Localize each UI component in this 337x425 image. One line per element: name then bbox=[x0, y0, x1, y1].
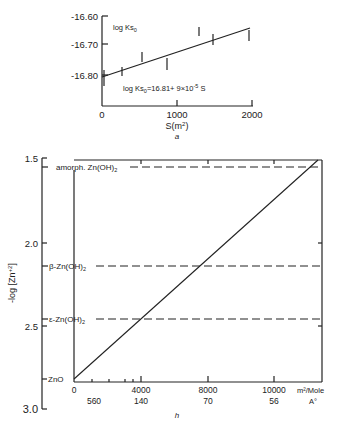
chart-b bbox=[42, 158, 322, 409]
y-tick-label: -16.60 bbox=[71, 11, 98, 22]
fit-line bbox=[102, 28, 250, 77]
x-tick-label: 0 bbox=[99, 109, 104, 120]
free-energy-line bbox=[74, 160, 318, 379]
y-tick-label: 1.5 bbox=[25, 153, 38, 164]
x-tick-size-label: 56 bbox=[269, 396, 279, 406]
ref-label-epsilon: ε-Zn(OH)2 bbox=[49, 315, 85, 325]
y-axis-label: -log [Zn+2] bbox=[7, 263, 17, 303]
fit-equation: log Ks0=16.81+ 9×10-5 S bbox=[123, 83, 205, 94]
x-tick-label: 1000 bbox=[166, 109, 187, 120]
panel-label: h bbox=[175, 411, 180, 420]
x-tick-label: 2000 bbox=[241, 109, 262, 120]
inset-label: log Ks0 bbox=[113, 23, 137, 33]
panel-label: a bbox=[175, 132, 180, 141]
figure: -16.60 -16.70 -16.80 0 1000 2000 log Ks0… bbox=[0, 0, 337, 425]
y-tick-label: 2.0 bbox=[25, 238, 38, 249]
x-units-size: A° bbox=[309, 397, 317, 406]
x-axis-label: S(m2) bbox=[166, 121, 189, 131]
x-tick-size-label: 140 bbox=[134, 396, 148, 406]
x-tick-label: 0 bbox=[72, 385, 77, 395]
x-tick-label: 4000 bbox=[132, 385, 151, 395]
y-tick-label: -16.70 bbox=[71, 39, 98, 50]
x-tick-size-label: 70 bbox=[203, 396, 213, 406]
ref-label-zno: ZnO bbox=[48, 375, 64, 384]
ref-label-amorph: amorph. Zn(OH)2 bbox=[56, 163, 117, 173]
x-tick-label: 8000 bbox=[199, 385, 218, 395]
ref-label-beta: β-Zn(OH)2 bbox=[49, 262, 86, 272]
y-tick-label: 2.5 bbox=[25, 321, 38, 332]
y-tick-label: -16.80 bbox=[71, 70, 98, 81]
x-units-area: m²/Mole bbox=[297, 386, 324, 395]
x-tick-size-label: 560 bbox=[87, 396, 101, 406]
y-tick-label: 3.0 bbox=[23, 403, 38, 415]
x-tick-label: 10000 bbox=[262, 385, 286, 395]
